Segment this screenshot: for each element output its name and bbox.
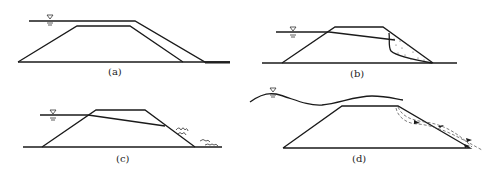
dam-outline [283,106,470,148]
dam-failure-diagram [0,0,498,175]
flow-path-lower [396,108,482,150]
water-level-icon [47,15,53,25]
panel-label-d: (d) [352,153,366,164]
panel-label-c: (c) [116,153,129,164]
water-level-icon [270,88,276,97]
panel-label-a: (a) [108,66,122,77]
panel-a [18,15,230,63]
slip-mass-dots [393,38,424,60]
panel-d [250,88,482,150]
panel-b [262,27,457,63]
water-overflow-line [29,21,230,62]
dam-outline [18,26,183,62]
seepage-line [329,32,395,40]
panel-c [23,110,222,147]
panel-label-b: (b) [350,68,364,79]
slip-surface [389,33,432,63]
